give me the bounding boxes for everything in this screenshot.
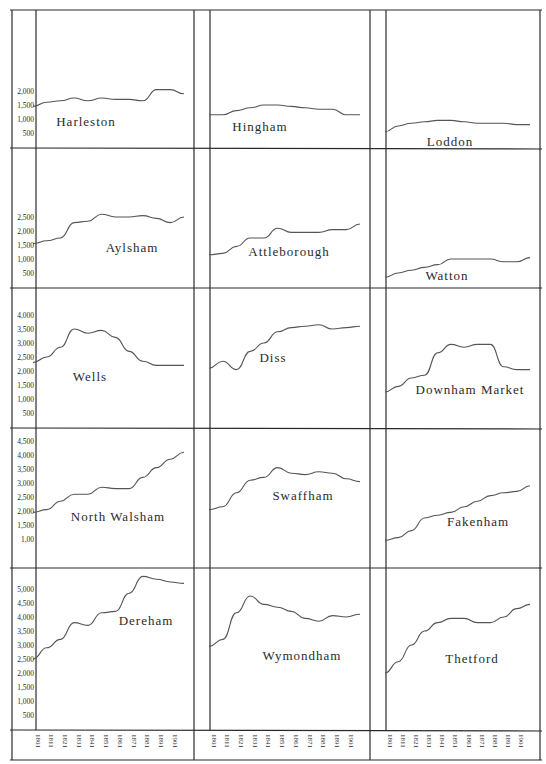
y-tick-label: 2,000	[17, 367, 34, 376]
population-line-loddon	[385, 120, 530, 131]
y-tick-label: 3,000	[17, 339, 34, 348]
x-tick-label: 1861	[465, 734, 473, 749]
y-tick-label: 3,000	[17, 479, 34, 488]
y-tick-label: 1,000	[17, 115, 34, 124]
y-tick-label: 2,000	[17, 669, 34, 678]
y-tick-label: 4,000	[17, 613, 34, 622]
y-tick-label: 4,500	[17, 599, 34, 608]
y-tick-label: 4,500	[17, 437, 34, 446]
x-tick-label: 1851	[278, 734, 286, 749]
x-tick-label: 1881	[143, 734, 151, 749]
population-small-multiples-chart: 2,0001,5001,0005002,5002,0001,5001,00050…	[0, 0, 546, 764]
x-tick-label: 1811	[399, 734, 407, 748]
x-tick-label: 1901	[171, 734, 179, 749]
x-tick-label: 1831	[251, 734, 259, 749]
y-tick-label: 500	[23, 129, 35, 138]
town-label: Attleborough	[248, 244, 329, 259]
x-axis-year-labels: 1801181118211831184118511861187118811891…	[34, 734, 526, 749]
town-label: Aylsham	[106, 240, 159, 255]
x-tick-label: 1821	[61, 734, 69, 749]
y-tick-label: 2,000	[17, 507, 34, 516]
x-tick-label: 1821	[412, 734, 420, 749]
y-tick-label: 4,000	[17, 451, 34, 460]
y-tick-label: 3,500	[17, 465, 34, 474]
x-tick-label: 1811	[47, 734, 55, 748]
y-tick-label: 1,500	[17, 521, 34, 530]
x-tick-label: 1891	[157, 734, 165, 749]
y-tick-label: 2,500	[17, 655, 34, 664]
y-tick-label: 3,500	[17, 325, 34, 334]
y-tick-label: 500	[23, 269, 35, 278]
y-tick-label: 1,000	[17, 395, 34, 404]
town-labels: HarlestonHinghamLoddonAylshamAttleboroug…	[56, 114, 524, 666]
x-tick-label: 1891	[504, 734, 512, 749]
town-label: Thetford	[445, 651, 498, 666]
y-tick-label: 2,000	[17, 87, 34, 96]
population-line-harleston	[33, 90, 184, 107]
y-tick-label: 1,000	[17, 697, 34, 706]
population-line-wells	[33, 329, 184, 365]
y-tick-label: 1,500	[17, 381, 34, 390]
x-tick-label: 1881	[491, 734, 499, 749]
x-tick-label: 1871	[478, 734, 486, 749]
town-label: Downham Market	[416, 382, 525, 397]
y-tick-label: 4,000	[17, 311, 34, 320]
y-tick-label: 1,500	[17, 101, 34, 110]
town-label: Wymondham	[263, 648, 342, 663]
x-tick-label: 1861	[292, 734, 300, 749]
population-line-north-walsham	[33, 452, 184, 512]
y-tick-label: 1,500	[17, 683, 34, 692]
y-axis-labels: 2,0001,5001,0005002,5002,0001,5001,00050…	[17, 87, 34, 720]
town-label: Hingham	[232, 119, 287, 134]
x-tick-label: 1831	[75, 734, 83, 749]
x-tick-label: 1811	[223, 734, 231, 748]
grid-rule	[10, 730, 542, 731]
y-tick-label: 1,500	[17, 241, 34, 250]
y-tick-label: 1,000	[17, 255, 34, 264]
y-tick-label: 3,500	[17, 627, 34, 636]
x-tick-label: 1851	[451, 734, 459, 749]
y-tick-label: 5,000	[17, 585, 34, 594]
chart-canvas: 2,0001,5001,0005002,5002,0001,5001,00050…	[0, 0, 546, 764]
town-label: Swaffham	[272, 488, 333, 503]
population-line-wymondham	[209, 596, 360, 646]
x-tick-label: 1831	[425, 734, 433, 749]
x-tick-label: 1801	[34, 734, 42, 749]
x-tick-label: 1891	[333, 734, 341, 749]
x-tick-label: 1841	[264, 734, 272, 749]
x-tick-label: 1821	[237, 734, 245, 749]
x-tick-label: 1801	[386, 734, 394, 749]
town-label: Fakenham	[447, 514, 509, 529]
town-label: Dereham	[119, 613, 174, 628]
x-tick-label: 1851	[102, 734, 110, 749]
y-tick-label: 3,000	[17, 641, 34, 650]
y-tick-label: 2,000	[17, 227, 34, 236]
y-tick-label: 500	[23, 409, 35, 418]
y-tick-label: 1,00	[21, 535, 34, 544]
x-tick-label: 1861	[116, 734, 124, 749]
population-line-hingham	[209, 105, 360, 115]
town-label: Loddon	[427, 134, 473, 149]
x-tick-label: 1841	[88, 734, 96, 749]
town-label: Watton	[425, 268, 468, 283]
y-tick-label: 2,500	[17, 213, 34, 222]
town-label: Harleston	[56, 114, 116, 129]
x-tick-label: 1841	[438, 734, 446, 749]
town-label: North Walsham	[71, 509, 165, 524]
x-tick-label: 1901	[517, 734, 525, 749]
x-tick-label: 1871	[306, 734, 314, 749]
town-label: Wells	[73, 369, 107, 384]
grid-rule	[10, 428, 542, 429]
y-tick-label: 500	[23, 711, 35, 720]
y-tick-label: 2,500	[17, 493, 34, 502]
town-label: Diss	[259, 350, 286, 365]
x-tick-label: 1881	[319, 734, 327, 749]
y-tick-label: 2,500	[17, 353, 34, 362]
x-tick-label: 1871	[130, 734, 138, 749]
x-tick-label: 1901	[347, 734, 355, 749]
x-tick-label: 1801	[210, 734, 218, 749]
